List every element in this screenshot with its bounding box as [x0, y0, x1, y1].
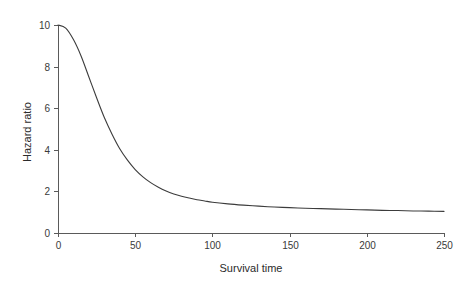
y-axis-title: Hazard ratio	[21, 102, 33, 162]
x-tick-label: 200	[359, 240, 376, 251]
x-tick-label: 0	[56, 240, 62, 251]
x-tick-label: 50	[130, 240, 142, 251]
x-axis-title: Survival time	[220, 262, 283, 274]
chart-canvas: 0246810 050100150200250 Survival time Ha…	[0, 0, 470, 287]
hazard-ratio-chart-figure: 0246810 050100150200250 Survival time Ha…	[0, 0, 470, 287]
y-tick-label: 10	[39, 20, 51, 31]
y-tick-label: 4	[44, 145, 50, 156]
y-tick-label: 0	[44, 228, 50, 239]
chart-background	[0, 0, 470, 287]
y-tick-label: 8	[44, 62, 50, 73]
x-tick-label: 250	[436, 240, 453, 251]
x-tick-label: 100	[204, 240, 221, 251]
y-tick-label: 2	[44, 186, 50, 197]
y-tick-label: 6	[44, 103, 50, 114]
x-tick-label: 150	[282, 240, 299, 251]
